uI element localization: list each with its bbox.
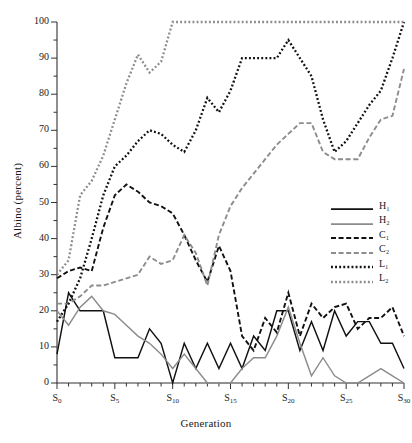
legend-label-l2: L₂ <box>374 272 389 283</box>
legend-label-l1: L₁ <box>374 258 389 269</box>
y-tick-label: 80 <box>21 87 49 98</box>
legend-item-c2: C₂ <box>330 242 408 257</box>
legend-label-h2: H₂ <box>374 214 390 225</box>
y-tick-label: 60 <box>21 159 49 170</box>
y-tick-label: 100 <box>21 15 49 26</box>
legend-swatch-h1 <box>330 200 374 210</box>
x-tick-label: S25 <box>329 392 363 405</box>
series-line-h2 <box>57 296 404 383</box>
y-tick-label: 90 <box>21 51 49 62</box>
legend-item-h2: H₂ <box>330 213 408 228</box>
legend-item-l1: L₁ <box>330 256 408 271</box>
chart-legend: H₁H₂C₁C₂L₁L₂ <box>330 198 408 285</box>
legend-swatch-c1 <box>330 229 374 239</box>
y-tick-label: 20 <box>21 304 49 315</box>
x-tick-label: S5 <box>98 392 132 405</box>
y-tick-label: 10 <box>21 340 49 351</box>
legend-label-c2: C₂ <box>374 243 389 254</box>
x-tick-label: S20 <box>271 392 305 405</box>
legend-label-h1: H₁ <box>374 200 390 211</box>
x-axis-ticks <box>57 383 404 389</box>
y-tick-label: 40 <box>21 232 49 243</box>
legend-swatch-l1 <box>330 258 374 268</box>
legend-swatch-c2 <box>330 244 374 254</box>
x-tick-label: S0 <box>40 392 74 405</box>
albino-percent-line-chart: Albino (percent) Generation 010203040506… <box>0 0 412 443</box>
legend-swatch-l2 <box>330 273 374 283</box>
x-tick-label: S30 <box>387 392 412 405</box>
legend-label-c1: C₁ <box>374 229 389 240</box>
y-tick-label: 0 <box>21 376 49 387</box>
legend-item-h1: H₁ <box>330 198 408 213</box>
legend-item-c1: C₁ <box>330 227 408 242</box>
legend-swatch-h2 <box>330 215 374 225</box>
x-tick-label: S10 <box>156 392 190 405</box>
x-tick-label: S15 <box>214 392 248 405</box>
x-axis-title: Generation <box>0 417 412 429</box>
legend-item-l2: L₂ <box>330 271 408 286</box>
y-axis-ticks <box>51 22 57 383</box>
series-line-h1 <box>57 293 404 383</box>
y-tick-label: 70 <box>21 123 49 134</box>
y-tick-label: 50 <box>21 196 49 207</box>
y-tick-label: 30 <box>21 268 49 279</box>
